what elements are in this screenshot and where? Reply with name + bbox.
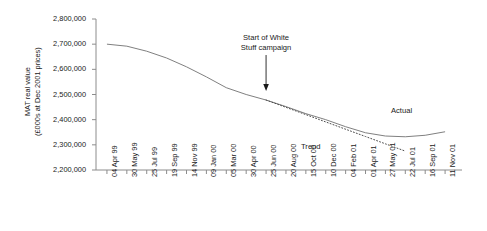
x-axis-tick-label: 11 Nov 01 (448, 144, 457, 177)
y-axis-tick-label: 2,200,000 (34, 165, 86, 174)
x-axis-tick-label: 16 Sep 01 (428, 143, 437, 177)
x-axis-tick-label: 30 Apr 00 (249, 145, 258, 177)
x-axis-tick-label: 04 Apr 99 (110, 145, 119, 177)
annotation-line1: Start of White (210, 33, 322, 43)
series-line-actual (107, 44, 445, 137)
x-axis-tick-label: 10 Dec 00 (329, 143, 338, 177)
series-label-trend: Trend (301, 142, 321, 151)
x-axis-tick-label: 22 Jul 01 (408, 147, 417, 177)
annotation-arrow-icon (263, 55, 269, 91)
x-axis-tick-label: 27 May 01 (388, 142, 397, 177)
x-axis-tick-label: 30 May 99 (130, 142, 139, 177)
x-axis-tick-label: 09 Jan 00 (209, 145, 218, 177)
y-axis-tick-label: 2,400,000 (34, 115, 86, 124)
series-label-actual: Actual (391, 106, 412, 115)
x-axis-tick-label: 20 Aug 00 (289, 144, 298, 177)
y-axis-ticks (92, 19, 96, 170)
y-axis-tick-label: 2,700,000 (34, 39, 86, 48)
x-axis-tick-label: 01 Apr 01 (369, 145, 378, 177)
chart-container: MAT real value (£000s at Dec 2001 prices… (0, 0, 487, 231)
annotation-line2: Stuff campaign (210, 43, 322, 53)
x-axis-tick-label: 19 Sep 99 (170, 143, 179, 177)
y-axis-tick-label: 2,800,000 (34, 14, 86, 23)
y-axis-tick-label: 2,500,000 (34, 90, 86, 99)
x-axis-tick-label: 04 Feb 01 (349, 144, 358, 177)
annotation-label-campaign: Start of White Stuff campaign (210, 33, 322, 53)
x-axis-tick-label: 25 Jun 00 (269, 145, 278, 177)
x-axis-tick-label: 14 Nov 99 (190, 143, 199, 177)
x-axis-tick-label: 25 Jul 99 (150, 147, 159, 177)
x-axis-tick-label: 05 Mar 00 (229, 144, 238, 177)
y-axis-tick-label: 2,300,000 (34, 140, 86, 149)
y-axis-title-line1: MAT real value (23, 37, 33, 147)
y-axis-tick-label: 2,600,000 (34, 64, 86, 73)
